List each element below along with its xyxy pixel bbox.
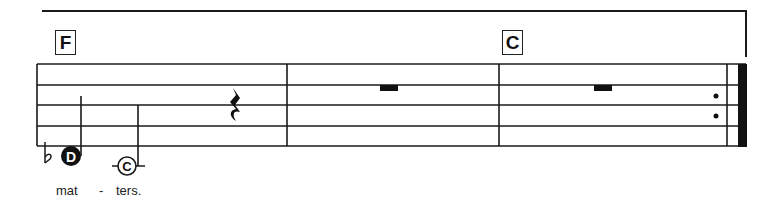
staff: D C	[0, 0, 778, 205]
lyric-hyphen: -	[99, 183, 103, 198]
repeat-dot-icon	[714, 114, 719, 119]
lyric-syllable: mat	[56, 183, 78, 198]
lyric-syllable: ters.	[116, 183, 141, 198]
svg-text:D: D	[66, 149, 76, 165]
flat-icon	[45, 142, 51, 163]
note-c-icon: C	[112, 105, 145, 175]
staff-lines	[37, 64, 746, 146]
whole-rest-icon	[594, 85, 612, 91]
whole-rest-icon	[380, 85, 398, 91]
note-d-icon: D	[61, 96, 81, 166]
svg-text:C: C	[122, 159, 132, 174]
repeat-dot-icon	[714, 94, 719, 99]
final-thick-barline	[738, 64, 747, 147]
